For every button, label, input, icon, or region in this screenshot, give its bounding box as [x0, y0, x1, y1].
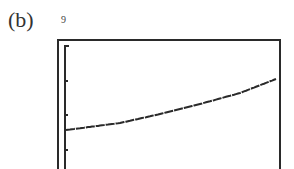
data-curve: [66, 79, 276, 130]
plot-area: [0, 0, 294, 169]
window-frame: [58, 40, 280, 169]
